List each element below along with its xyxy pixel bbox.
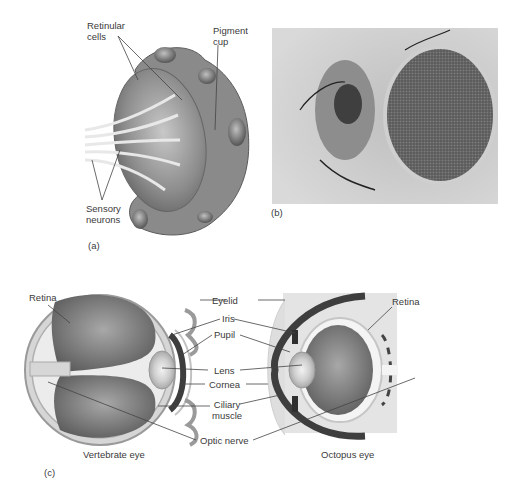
label-retinular-cells: Retinular cells [87,20,125,42]
caption-b: (b) [271,207,283,218]
label-eyelid: Eyelid [212,295,238,306]
vertebrate-eye [25,295,197,445]
label-retina-vertebrate: Retina [29,292,56,303]
panel-a-illustration [0,0,523,501]
title-vertebrate-eye: Vertebrate eye [83,449,145,460]
label-sensory-neurons: Sensory neurons [86,203,121,225]
label-retina-octopus: Retina [392,296,419,307]
label-cornea: Cornea [209,379,240,390]
caption-a: (a) [88,240,100,251]
caption-c: (c) [44,467,55,478]
label-iris: Iris [222,313,235,324]
label-lens: Lens [214,365,235,376]
title-octopus-eye: Octopus eye [321,449,374,460]
label-pupil: Pupil [214,329,235,340]
label-optic-nerve: Optic nerve [200,435,249,446]
label-ciliary-muscle: Ciliary muscle [212,399,242,421]
octopus-eye [268,293,398,436]
label-pigment-cup: Pigment cup [213,25,248,47]
